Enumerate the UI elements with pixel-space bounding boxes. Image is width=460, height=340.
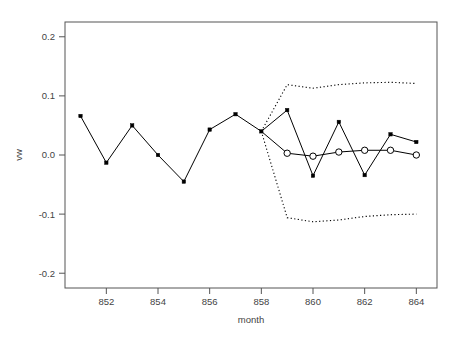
forecast-point-marker xyxy=(361,147,367,153)
data-point-marker xyxy=(285,108,288,111)
plot-frame xyxy=(65,22,437,288)
data-point-marker xyxy=(79,114,82,117)
data-point-marker xyxy=(337,120,340,123)
x-axis-title: month xyxy=(238,314,264,325)
plot-canvas: 0.20.10.0-0.1-0.2 852854856858860862864 … xyxy=(0,0,460,340)
data-point-marker xyxy=(415,140,418,143)
x-tick-label: 862 xyxy=(357,296,373,307)
x-tick-label: 864 xyxy=(408,296,424,307)
y-tick-label: -0.2 xyxy=(39,268,55,279)
forecast-point-marker xyxy=(284,150,290,156)
data-point-marker xyxy=(208,128,211,131)
y-axis: 0.20.10.0-0.1-0.2 xyxy=(39,31,65,278)
data-point-marker xyxy=(311,174,314,177)
data-point-marker xyxy=(105,161,108,164)
chart-figure: 0.20.10.0-0.1-0.2 852854856858860862864 … xyxy=(0,0,460,340)
y-tick-label: 0.0 xyxy=(42,149,55,160)
series-upper-bound xyxy=(261,82,416,131)
x-tick-label: 856 xyxy=(202,296,218,307)
data-point-marker xyxy=(156,153,159,156)
x-tick-label: 852 xyxy=(98,296,114,307)
series-observed xyxy=(79,108,418,183)
y-axis-title: vw xyxy=(13,149,24,161)
y-tick-label: 0.2 xyxy=(42,31,55,42)
y-tick-label: 0.1 xyxy=(42,90,55,101)
series-lower-bound xyxy=(261,131,416,221)
forecast-point-marker xyxy=(310,153,316,159)
data-point-marker xyxy=(389,133,392,136)
series-line-observed xyxy=(81,110,417,182)
x-tick-label: 860 xyxy=(305,296,321,307)
y-tick-label: -0.1 xyxy=(39,209,55,220)
data-point-marker xyxy=(130,124,133,127)
series-line-upper-bound xyxy=(261,82,416,131)
data-point-marker xyxy=(182,180,185,183)
x-tick-label: 854 xyxy=(150,296,166,307)
forecast-point-marker xyxy=(336,149,342,155)
forecast-point-marker xyxy=(413,152,419,158)
plot-border xyxy=(65,22,437,288)
data-point-marker xyxy=(234,113,237,116)
forecast-point-marker xyxy=(387,147,393,153)
data-point-marker xyxy=(363,173,366,176)
x-axis: 852854856858860862864 xyxy=(98,288,424,307)
series-line-lower-bound xyxy=(261,131,416,221)
x-tick-label: 858 xyxy=(253,296,269,307)
data-series-group xyxy=(79,82,420,222)
